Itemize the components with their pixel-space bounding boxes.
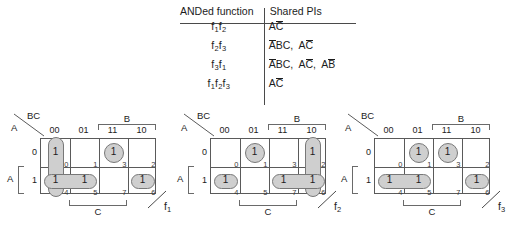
- literal: C: [283, 39, 291, 51]
- function-symbol: f2: [219, 20, 227, 32]
- bracket-c-label: C: [69, 206, 127, 217]
- table-row: f1f2f3AC: [178, 78, 358, 97]
- kmap-row-header: 0: [30, 147, 39, 157]
- shared-pis-cell: ABC, AC: [260, 40, 358, 51]
- literal: A: [269, 20, 276, 32]
- kmap-cell[interactable]: 1: [70, 139, 99, 167]
- kmap-row-header: 1: [200, 175, 209, 185]
- bracket-c-label: C: [403, 206, 461, 217]
- literal-complemented: A: [269, 40, 276, 51]
- bracket-a-label: A: [7, 173, 13, 184]
- kmap-cell-value-one: 1: [111, 147, 117, 157]
- kmap-cell[interactable]: 2: [128, 139, 157, 167]
- bracket-a: [352, 166, 358, 194]
- function-symbol: f3: [219, 39, 227, 51]
- anded-function-cell: f2f3: [178, 40, 260, 51]
- kmap-grid: 0113124151761: [374, 138, 490, 194]
- kmap-cell-value-one: 1: [310, 175, 316, 185]
- kmap-function-subscript: 3: [501, 205, 505, 214]
- kmap-column-header: 00: [374, 125, 403, 135]
- kmap-cell-index: 4: [234, 189, 238, 197]
- kmap-cell[interactable]: 7: [99, 167, 128, 195]
- kmap-cell[interactable]: 3: [269, 139, 298, 167]
- kmap-cell-index: 5: [263, 189, 267, 197]
- kmap-cell-value-one: 1: [416, 175, 422, 185]
- kmap-column-header: 01: [239, 125, 268, 135]
- table-row: f1f2AC: [178, 21, 358, 40]
- kmap-group-pill: [44, 174, 97, 189]
- function-symbol: f1: [219, 58, 227, 70]
- kmap-row-header: 0: [200, 147, 209, 157]
- bracket-c-label: C: [239, 206, 297, 217]
- kmap-row-var-label: A: [181, 122, 187, 133]
- bracket-b-label: B: [432, 113, 490, 124]
- function-subscript: 2: [218, 82, 222, 91]
- literal-complemented: A: [269, 59, 276, 70]
- literal: C: [283, 58, 291, 70]
- anded-function-cell: f3f1: [178, 59, 260, 70]
- kmap-cell[interactable]: 0: [211, 139, 240, 167]
- kmap-function-label: f1: [164, 200, 171, 212]
- literal: A: [269, 77, 276, 89]
- kmap-row-header: 1: [364, 175, 373, 185]
- table-header-anded-function: ANDed function: [178, 6, 261, 17]
- literal: A: [321, 58, 328, 70]
- kmap-column-header: 01: [403, 125, 432, 135]
- prime-implicant-term: AC: [299, 58, 314, 70]
- anded-function-cell: f1f2f3: [178, 78, 260, 89]
- bracket-b: [98, 124, 156, 130]
- kmap-group-pill: [378, 174, 431, 189]
- literal-complemented: B: [328, 59, 335, 70]
- kmap-function-subscript: 1: [167, 205, 171, 214]
- prime-implicant-term: AC: [299, 39, 314, 51]
- kmap-cell-value-one: 1: [445, 147, 451, 157]
- shared-pis-cell: AC: [260, 78, 358, 89]
- kmap-grid: 0113124151761: [40, 138, 156, 194]
- literal: B: [276, 58, 283, 70]
- function-subscript: 1: [222, 63, 226, 72]
- kmap-col-var-label: BC: [197, 110, 210, 121]
- kmap-grid: 0113214157161: [210, 138, 326, 194]
- prime-implicant-term: ABC: [269, 58, 291, 70]
- prime-implicant-term: AB: [321, 58, 335, 70]
- function-subscript: 3: [222, 44, 226, 53]
- kmap-cell-value-one: 1: [223, 175, 229, 185]
- kmap-cell-index: 4: [64, 189, 68, 197]
- literal-complemented: C: [276, 21, 284, 32]
- function-symbol: f3: [223, 77, 231, 89]
- bracket-b-label: B: [98, 113, 156, 124]
- function-symbol: f3: [211, 58, 219, 70]
- function-subscript: 1: [214, 25, 218, 34]
- kmap-cell-value-one: 1: [281, 175, 287, 185]
- literal-complemented: C: [306, 59, 314, 70]
- kmap-cell[interactable]: 5: [240, 167, 269, 195]
- kmap-f1: BCA0001111001BCA0113124151761f1: [4, 112, 164, 236]
- kmap-cell[interactable]: 2: [462, 139, 491, 167]
- shared-pi-table: ANDed function Shared PIs f1f2ACf2f3ABC,…: [178, 6, 358, 97]
- kmap-cell-index: 5: [93, 189, 97, 197]
- table-header-shared-pis: Shared PIs: [261, 6, 358, 17]
- literal: B: [276, 39, 283, 51]
- kmap-group-pill: [272, 174, 325, 189]
- function-symbol: f1: [208, 77, 216, 89]
- kmap-cell-index: 5: [427, 189, 431, 197]
- kmap-cell-index: 7: [122, 189, 126, 197]
- table-row: f2f3ABC, AC: [178, 40, 358, 59]
- kmap-cell-value-one: 1: [53, 175, 59, 185]
- function-symbol: f2: [215, 77, 223, 89]
- function-subscript: 3: [214, 63, 218, 72]
- prime-implicant-term: AC: [269, 77, 284, 89]
- bracket-a-label: A: [341, 173, 347, 184]
- kmap-f3: BCA0001111001BCA0113124151761f3: [338, 112, 498, 236]
- function-subscript: 2: [222, 25, 226, 34]
- bracket-a-label: A: [177, 173, 183, 184]
- kmap-col-var-label: BC: [27, 110, 40, 121]
- kmap-column-header: 00: [40, 125, 69, 135]
- kmap-cell[interactable]: 7: [433, 167, 462, 195]
- bracket-b: [432, 124, 490, 130]
- prime-implicant-term: AC: [269, 20, 284, 32]
- function-subscript: 1: [211, 82, 215, 91]
- kmap-cell-value-one: 1: [310, 147, 316, 157]
- kmap-cell[interactable]: 0: [375, 139, 404, 167]
- prime-implicant-term: ABC: [269, 39, 291, 51]
